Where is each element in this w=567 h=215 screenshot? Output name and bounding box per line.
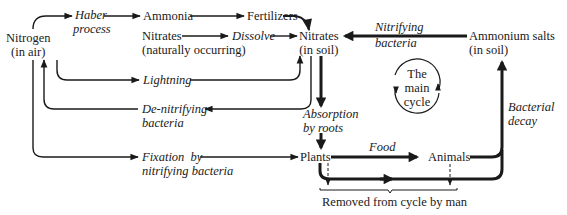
process-sublabel: bacteria <box>375 36 424 50</box>
node-label: Nitrates <box>142 29 246 43</box>
node-nitrogen-air: Nitrogen (in air) <box>6 31 50 59</box>
node-fertilizers: Fertilizers <box>247 9 298 23</box>
node-sublabel: (in air) <box>6 45 50 59</box>
process-food: Food <box>369 140 395 154</box>
node-ammonium-salts: Ammonium salts (in soil) <box>469 29 555 57</box>
process-fixation: Fixation by nitrifying bacteria <box>142 150 233 178</box>
process-lightning: Lightning <box>143 73 192 87</box>
process-label: Haber <box>75 8 111 22</box>
process-sublabel: bacteria <box>142 116 207 130</box>
arrow-nitrogen-to-haber <box>33 16 72 29</box>
main-cycle-line: The <box>400 67 434 81</box>
arrow-plants-loop-to-decay <box>320 150 502 179</box>
node-ammonia: Ammonia <box>143 9 193 23</box>
process-label: Bacterial <box>508 100 555 114</box>
node-sublabel: (naturally occurring) <box>142 43 246 57</box>
removed-by-man-label: Removed from cycle by man <box>322 195 467 209</box>
process-label: Nitrifying <box>375 20 424 34</box>
main-cycle-label: The main cycle <box>400 67 434 109</box>
main-cycle-line: cycle <box>400 95 434 109</box>
arrow-animals-to-decay <box>470 62 502 157</box>
arrow-nitrogen-to-lightning <box>57 60 139 80</box>
node-label: Nitrogen <box>6 31 50 45</box>
node-nitrates-soil: Nitrates (in soil) <box>299 29 339 57</box>
process-sublabel: by roots <box>303 121 359 135</box>
node-plants: Plants <box>300 150 331 164</box>
nitrogen-cycle-diagram: Nitrogen (in air) Ammonia Fertilizers Ni… <box>0 0 567 215</box>
process-label: Fixation by <box>142 150 233 164</box>
node-animals: Animals <box>428 150 470 164</box>
process-dissolve: Dissolve <box>232 29 275 43</box>
node-label: Nitrates <box>299 29 339 43</box>
process-bacterial-decay: Bacterial decay <box>508 100 555 128</box>
process-sublabel: process <box>73 22 111 36</box>
node-sublabel: (in soil) <box>299 43 339 57</box>
process-absorption: Absorption by roots <box>303 107 359 135</box>
removed-brace <box>320 188 457 193</box>
process-nitrifying: Nitrifying bacteria <box>375 20 424 50</box>
process-sublabel: nitrifying bacteria <box>142 164 233 178</box>
main-cycle-line: main <box>400 81 434 95</box>
arrow-denitrifying-to-nitrogen <box>44 60 138 109</box>
node-sublabel: (in soil) <box>469 43 555 57</box>
process-haber: Haber process <box>75 8 111 36</box>
arrow-nitrates-soil-to-denitrifying <box>205 56 311 109</box>
arrow-lightning-to-nitrates-soil <box>190 56 300 80</box>
process-label: De-nitrifying <box>142 102 207 116</box>
node-nitrates-natural: Nitrates (naturally occurring) <box>142 29 246 57</box>
process-denitrifying: De-nitrifying bacteria <box>142 102 207 130</box>
process-sublabel: decay <box>508 114 555 128</box>
node-label: Ammonium salts <box>469 29 555 43</box>
process-label: Absorption <box>303 107 359 121</box>
